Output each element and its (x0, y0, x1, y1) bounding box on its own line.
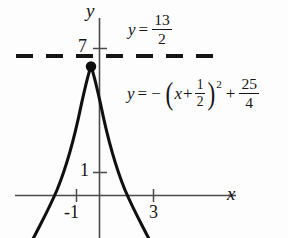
y-tick-label-7: 7 (78, 37, 87, 55)
fraction-25-over-4: 25 4 (239, 76, 259, 110)
x-tick-label-neg1: -1 (64, 203, 79, 221)
fraction-denominator-2: 2 (156, 30, 168, 47)
fraction-numerator-13: 13 (152, 12, 172, 30)
x-axis-label: x (227, 184, 235, 203)
equation-parabola-outer-plus: + (225, 85, 237, 102)
equation-parabola: y = − ( x + 1 2 ) 2 + 25 4 (127, 76, 260, 110)
y-axis-label: y (86, 1, 94, 20)
fraction-1-over-2: 1 2 (195, 78, 206, 108)
equation-parabola-variable: x (175, 85, 183, 102)
x-tick-label-3: 3 (149, 203, 158, 221)
equation-parabola-equals: = (137, 85, 149, 102)
equation-dashed-equals: = (138, 21, 150, 38)
equation-dashed-lhs: y (128, 21, 136, 38)
equation-parabola-lhs: y (127, 85, 135, 102)
exponent-two: 2 (216, 79, 222, 90)
equation-parabola-squared-group: ( x + 1 2 ) 2 (164, 78, 223, 108)
equation-parabola-inner-plus: + (182, 85, 194, 102)
parabola-graph-figure: y x 7 1 -1 3 y = 13 2 y = − ( x + 1 2 ) … (0, 0, 288, 238)
fraction-numerator-1: 1 (195, 78, 206, 94)
fraction-13-over-2: 13 2 (152, 12, 172, 46)
fraction-denominator-2: 2 (195, 94, 206, 109)
y-tick-label-1: 1 (80, 161, 89, 179)
close-paren: ) (208, 83, 216, 103)
fraction-denominator-4: 4 (243, 94, 255, 111)
equation-dashed-line: y = 13 2 (128, 12, 173, 46)
fraction-numerator-25: 25 (239, 76, 259, 94)
open-paren: ( (165, 83, 173, 103)
vertex-point-marker (86, 61, 96, 71)
equation-parabola-minus: − (150, 85, 162, 102)
